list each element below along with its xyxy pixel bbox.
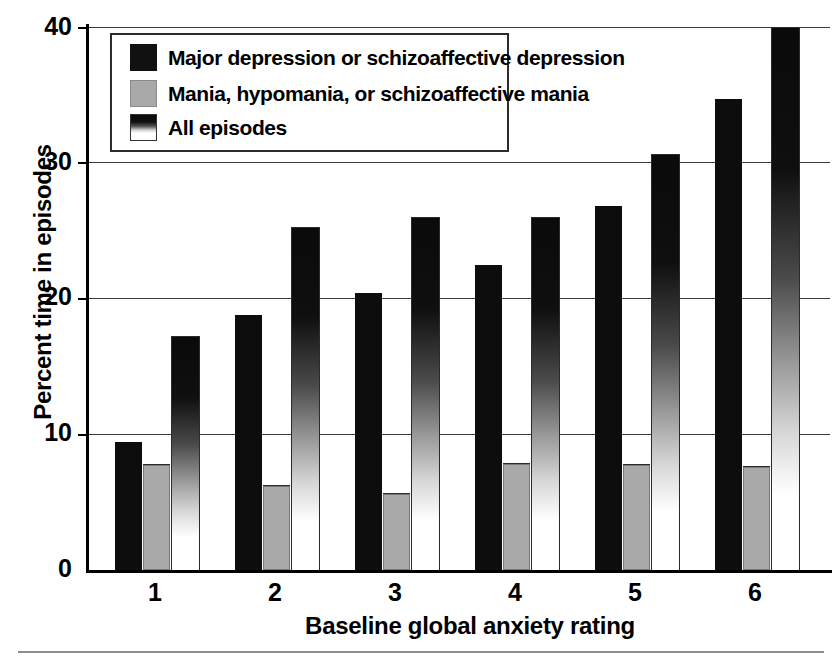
bar-major-depression-group-5 [595, 206, 622, 570]
chart-legend: Major depression or schizoaffective depr… [110, 33, 509, 152]
x-tick-label-4: 4 [495, 578, 535, 607]
x-tick-label-6: 6 [735, 578, 775, 607]
bar-all-episodes-group-4 [531, 217, 560, 570]
bar-mania-group-2 [263, 485, 290, 570]
legend-label-mania: Mania, hypomania, or schizoaffective man… [168, 83, 589, 104]
bar-mania-group-5 [623, 464, 650, 570]
bottom-divider [18, 651, 824, 653]
x-tick-label-5: 5 [615, 578, 655, 607]
bar-major-depression-group-6 [715, 99, 742, 570]
bar-major-depression-group-2 [235, 315, 262, 570]
bar-all-episodes-group-2 [291, 227, 320, 570]
legend-swatch-black-icon [130, 44, 157, 71]
bar-major-depression-group-3 [355, 293, 382, 570]
legend-item-all-episodes: All episodes [130, 112, 287, 142]
bar-mania-group-4 [503, 463, 530, 570]
legend-item-major-depression: Major depression or schizoaffective depr… [130, 42, 625, 72]
bar-all-episodes-group-6 [771, 27, 800, 570]
legend-label-major-depression: Major depression or schizoaffective depr… [168, 47, 625, 68]
x-tick-label-3: 3 [375, 578, 415, 607]
x-tick-label-2: 2 [255, 578, 295, 607]
bar-all-episodes-group-5 [651, 154, 680, 570]
bar-major-depression-group-4 [475, 265, 502, 570]
bar-all-episodes-group-1 [171, 336, 200, 570]
bar-mania-group-6 [743, 466, 770, 570]
bar-major-depression-group-1 [115, 442, 142, 570]
bar-all-episodes-group-3 [411, 217, 440, 570]
legend-label-all-episodes: All episodes [168, 117, 287, 138]
legend-swatch-gray-icon [130, 80, 157, 107]
bar-mania-group-3 [383, 493, 410, 570]
x-axis-line [86, 570, 832, 573]
bar-chart-figure: Percent time in episodes 40 30 20 10 0 1… [0, 0, 837, 666]
legend-item-mania: Mania, hypomania, or schizoaffective man… [130, 78, 589, 108]
legend-swatch-gradient-icon [130, 114, 157, 141]
bar-mania-group-1 [143, 464, 170, 570]
x-axis-title: Baseline global anxiety rating [110, 612, 830, 640]
x-tick-label-1: 1 [135, 578, 175, 607]
